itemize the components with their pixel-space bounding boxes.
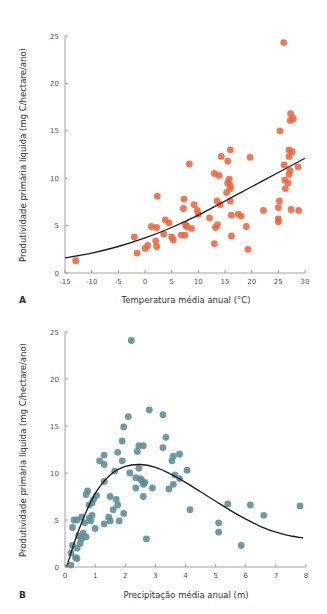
data-point — [289, 148, 296, 155]
y-tick-label: 0 — [55, 270, 59, 278]
data-point — [114, 449, 121, 456]
data-point — [211, 240, 218, 247]
data-point — [146, 407, 153, 414]
data-point — [113, 496, 120, 503]
y-tick-label: 25 — [50, 33, 59, 41]
data-point — [260, 512, 267, 519]
data-point — [120, 424, 127, 431]
data-point — [186, 161, 193, 168]
data-point — [84, 488, 91, 495]
data-point — [187, 506, 194, 513]
data-point — [238, 542, 245, 549]
data-point — [226, 176, 233, 183]
data-point — [153, 224, 160, 231]
chart-b-precipitation: 0510152025012345678 Produtividade primár… — [18, 329, 308, 601]
data-point — [128, 337, 135, 344]
data-point — [74, 555, 81, 562]
data-point — [215, 529, 222, 536]
data-point — [181, 196, 188, 203]
data-point — [275, 204, 282, 211]
data-point — [89, 512, 96, 519]
y-tick-label: 20 — [50, 80, 59, 88]
data-point — [154, 193, 161, 200]
data-point — [224, 158, 231, 165]
x-tick-label: -15 — [59, 278, 70, 286]
data-point — [149, 485, 156, 492]
data-point — [101, 520, 108, 527]
data-point — [276, 198, 283, 205]
data-point — [216, 172, 223, 179]
x-tick-label: 5 — [169, 278, 173, 286]
data-point — [107, 493, 114, 500]
y-tick-label: 15 — [50, 127, 59, 135]
data-point — [215, 519, 222, 526]
x-tick-label: 10 — [194, 278, 203, 286]
data-point — [280, 39, 287, 46]
x-tick-label: 20 — [247, 278, 256, 286]
y-tick-label: 5 — [55, 222, 59, 230]
data-point — [290, 115, 297, 122]
data-point — [288, 206, 295, 213]
data-point — [247, 154, 254, 161]
data-point — [170, 453, 177, 460]
data-point — [114, 502, 121, 509]
chart-a-panel-label: A — [19, 295, 26, 305]
data-point — [170, 481, 177, 488]
data-point — [214, 221, 221, 228]
data-point — [260, 207, 267, 214]
data-point — [180, 205, 187, 212]
x-tick-label: 6 — [244, 572, 249, 580]
data-point — [125, 413, 132, 420]
data-point — [218, 153, 225, 160]
y-tick-label: 20 — [50, 376, 59, 384]
chart-a-axes: 0510152025-15-10-5051015202530 — [50, 33, 309, 287]
data-point — [191, 201, 198, 208]
x-tick-label: 2 — [123, 572, 127, 580]
data-point — [184, 467, 191, 474]
data-point — [243, 223, 250, 230]
data-point — [160, 411, 167, 418]
chart-a-temperature: 0510152025-15-10-5051015202530 Produtivi… — [18, 33, 309, 306]
data-point — [119, 457, 126, 464]
data-point — [92, 525, 99, 532]
x-tick-label: 1 — [93, 572, 97, 580]
data-point — [143, 535, 150, 542]
chart-b-x-axis-label: Precipitação média anual (m) — [124, 590, 249, 600]
x-tick-label: 0 — [63, 572, 67, 580]
chart-a-x-axis-label: Temperatura média anual (°C) — [121, 295, 251, 305]
data-point — [83, 534, 90, 541]
data-point — [281, 162, 288, 169]
data-point — [134, 448, 141, 455]
data-point — [140, 493, 147, 500]
y-tick-label: 15 — [50, 423, 59, 431]
data-point — [135, 465, 142, 472]
chart-b-y-axis-label: Produtividade primária líquida (mg C/hec… — [18, 343, 28, 557]
x-tick-label: 8 — [304, 572, 308, 580]
data-point — [144, 242, 151, 249]
chart-b-points — [68, 337, 304, 568]
x-tick-label: 4 — [183, 572, 188, 580]
data-point — [228, 233, 235, 240]
data-point — [141, 479, 148, 486]
data-point — [224, 501, 231, 508]
data-point — [295, 163, 302, 170]
data-point — [245, 246, 252, 253]
data-point — [101, 461, 108, 468]
x-tick-label: 15 — [221, 278, 230, 286]
data-point — [188, 225, 195, 232]
y-tick-label: 25 — [50, 329, 59, 337]
data-point — [277, 127, 284, 134]
x-tick-label: -10 — [86, 278, 97, 286]
chart-a-points — [72, 39, 302, 264]
data-point — [227, 146, 234, 153]
x-tick-label: 3 — [153, 572, 157, 580]
chart-b-panel-label: B — [19, 590, 26, 600]
data-point — [170, 236, 177, 243]
data-point — [227, 185, 234, 192]
y-tick-label: 10 — [50, 470, 59, 478]
data-point — [163, 434, 170, 441]
data-point — [297, 503, 304, 510]
x-tick-label: 5 — [213, 572, 217, 580]
data-point — [131, 234, 138, 241]
data-point — [134, 250, 141, 257]
